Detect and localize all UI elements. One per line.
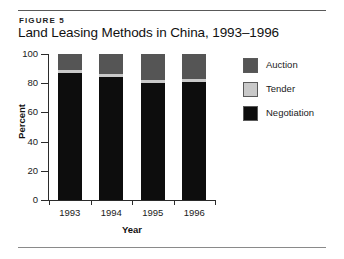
x-tick-label-1993: 1993 xyxy=(48,207,92,218)
figure-block: FIGURE 5 Land Leasing Methods in China, … xyxy=(0,0,344,259)
legend-swatch-tender xyxy=(243,82,258,97)
chart-legend: AuctionTenderNegotiation xyxy=(243,56,341,128)
x-tick-label-1995: 1995 xyxy=(131,207,175,218)
legend-label-auction: Auction xyxy=(266,59,298,70)
y-tick-label: 20 xyxy=(12,166,38,176)
figure-number-label: FIGURE 5 xyxy=(19,16,65,25)
bar-1995 xyxy=(141,54,165,200)
figure-bottom-rule xyxy=(18,247,326,248)
legend-swatch-auction xyxy=(243,58,258,73)
legend-label-negotiation: Negotiation xyxy=(266,107,314,118)
y-tick xyxy=(41,200,48,201)
x-tick xyxy=(49,200,50,205)
y-tick-label: 0 xyxy=(12,195,38,205)
figure-title: Land Leasing Methods in China, 1993–1996 xyxy=(18,25,279,40)
legend-swatch-negotiation xyxy=(243,106,258,121)
x-tick xyxy=(132,200,133,205)
y-axis-title: Percent xyxy=(16,92,27,152)
bar-1994 xyxy=(99,54,123,200)
figure-top-rule xyxy=(18,10,326,11)
y-tick-label: 100 xyxy=(12,49,38,59)
bar-1993 xyxy=(58,54,82,200)
x-tick xyxy=(91,200,92,205)
bar-segment-auction-1993 xyxy=(58,54,82,70)
y-tick xyxy=(41,83,48,84)
bar-segment-tender-1994 xyxy=(99,74,123,77)
bar-segment-tender-1995 xyxy=(141,80,165,83)
bar-segment-negotiation-1995 xyxy=(141,83,165,200)
x-tick xyxy=(215,200,216,205)
bar-segment-negotiation-1996 xyxy=(182,82,206,200)
y-tick xyxy=(41,142,48,143)
bar-segment-tender-1996 xyxy=(182,79,206,82)
y-tick xyxy=(41,112,48,113)
x-tick xyxy=(174,200,175,205)
x-tick-label-1996: 1996 xyxy=(172,207,216,218)
y-axis-line xyxy=(48,54,49,201)
legend-label-tender: Tender xyxy=(266,83,295,94)
bar-segment-negotiation-1993 xyxy=(58,73,82,200)
bar-segment-negotiation-1994 xyxy=(99,77,123,200)
bar-segment-auction-1995 xyxy=(141,54,165,80)
x-tick-label-1994: 1994 xyxy=(89,207,133,218)
legend-item-negotiation: Negotiation xyxy=(243,104,341,128)
legend-item-tender: Tender xyxy=(243,80,341,104)
x-axis-title: Year xyxy=(49,224,215,235)
bar-segment-auction-1994 xyxy=(99,54,123,74)
bar-segment-auction-1996 xyxy=(182,54,206,79)
y-tick xyxy=(41,171,48,172)
bar-1996 xyxy=(182,54,206,200)
bar-segment-tender-1993 xyxy=(58,70,82,73)
y-tick xyxy=(41,54,48,55)
y-tick-label: 80 xyxy=(12,78,38,88)
legend-item-auction: Auction xyxy=(243,56,341,80)
